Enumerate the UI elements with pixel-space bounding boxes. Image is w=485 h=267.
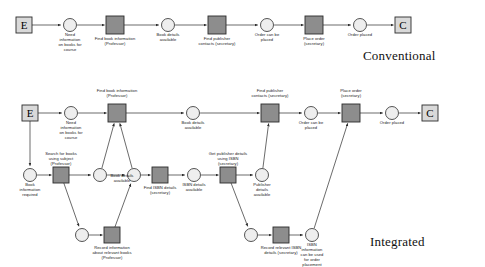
- arc-i-p6-to-i-t1: [102, 123, 114, 168]
- place-i-p1[interactable]: [65, 107, 78, 120]
- node-label-c-p1: Need information on books for course: [58, 32, 81, 52]
- place-c-p2[interactable]: [162, 19, 175, 32]
- place-i-p9[interactable]: [256, 169, 269, 182]
- arc-i-t6-to-i-p11: [231, 182, 248, 226]
- node-label-c-p4: Order placed: [348, 32, 372, 37]
- arc-i-t7-to-i-p7: [115, 184, 131, 228]
- transition-i-t6[interactable]: [220, 167, 236, 183]
- place-i-p2[interactable]: [187, 107, 200, 120]
- node-label-i-t5: Find ISBN details (secretary): [144, 185, 176, 195]
- node-label-i-t7: Record information about relevant books …: [92, 245, 131, 260]
- place-i-p4[interactable]: [386, 107, 399, 120]
- arc-i-t4-to-i-p10: [64, 182, 79, 226]
- terminal-glyph-c-start: E: [21, 20, 28, 31]
- transition-i-t8[interactable]: [273, 227, 289, 243]
- transition-i-t2[interactable]: [261, 104, 279, 122]
- place-i-p3[interactable]: [305, 107, 318, 120]
- node-label-c-p3: Order can be placed: [255, 32, 280, 42]
- node-label-i-t2: Find publisher contacts (secretary): [252, 88, 289, 98]
- transition-i-t4[interactable]: [53, 167, 69, 183]
- terminal-glyph-i-end: C: [426, 108, 433, 119]
- place-i-p12[interactable]: [306, 229, 319, 242]
- transition-c-t1[interactable]: [106, 16, 124, 34]
- transition-i-t3[interactable]: [342, 104, 360, 122]
- node-label-i-t1: Find book information (Professor): [97, 88, 137, 98]
- node-label-i-p9: Publisher details available: [253, 182, 271, 197]
- place-i-p6[interactable]: [94, 169, 107, 182]
- node-label-i-p2: Book details available: [182, 120, 205, 130]
- place-c-p1[interactable]: [64, 19, 77, 32]
- place-i-p8[interactable]: [188, 169, 201, 182]
- terminal-glyph-c-end: C: [399, 20, 406, 31]
- transition-i-t1[interactable]: [108, 104, 126, 122]
- transition-i-t7[interactable]: [104, 227, 120, 243]
- node-label-i-t3: Place order (secretary): [340, 88, 361, 98]
- arc-i-p7-to-i-t1: [120, 123, 132, 168]
- node-label-i-t8: Record relevant ISBN details (secretary): [261, 245, 302, 255]
- node-label-i-p5: Book information required: [20, 182, 41, 197]
- node-label-i-t4: Search for books using subject (Professo…: [45, 151, 77, 166]
- caption-integrated: Integrated: [370, 234, 425, 250]
- place-i-p5[interactable]: [24, 169, 37, 182]
- transition-c-t3[interactable]: [305, 16, 323, 34]
- transition-i-t5[interactable]: [152, 167, 168, 183]
- node-label-c-t2: Find publisher contacts (secretary): [199, 36, 236, 46]
- place-c-p3[interactable]: [261, 19, 274, 32]
- caption-conventional: Conventional: [363, 48, 435, 64]
- terminal-glyph-i-start: E: [27, 108, 34, 119]
- place-i-p10[interactable]: [76, 229, 89, 242]
- arc-i-p12-to-i-t3: [314, 123, 348, 228]
- place-i-p11[interactable]: [245, 229, 258, 242]
- transition-c-t2[interactable]: [208, 16, 226, 34]
- node-label-i-p6: Book details available: [111, 173, 134, 183]
- place-c-p4[interactable]: [354, 19, 367, 32]
- node-label-c-t3: Place order (secretary): [303, 36, 324, 46]
- arc-layer: [30, 25, 420, 235]
- node-label-i-p12: ISBN information can be used for order p…: [301, 242, 324, 267]
- node-label-c-t1: Find book information (Professor): [95, 36, 135, 46]
- node-label-i-p1: Need information on books for course: [59, 120, 82, 140]
- node-label-i-p8: ISBN details available: [182, 182, 205, 192]
- node-label-i-p4: Order placed: [380, 120, 404, 125]
- node-label-i-p3: Order can be placed: [299, 120, 324, 130]
- node-label-i-t6: Get publisher details using ISBN (secret…: [209, 151, 247, 166]
- node-label-c-p2: Book details available: [157, 32, 180, 42]
- arc-i-p9-to-i-t2: [263, 123, 269, 168]
